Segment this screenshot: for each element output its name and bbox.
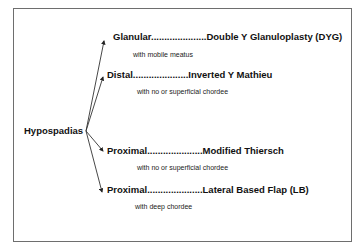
arrow-distal	[86, 77, 103, 131]
note-distal: with no or superficial chordee	[137, 88, 228, 95]
branch-proximal-2: Proximal.....................Lateral Bas…	[107, 184, 309, 195]
branch-distal: Distal.....................Inverted Y Ma…	[107, 69, 272, 80]
branch-proximal-1: Proximal.....................Modified Th…	[107, 145, 284, 156]
arrow-glanular	[86, 41, 104, 131]
note-proximal-1: with no or superficial chordee	[137, 164, 228, 171]
root-label: Hypospadias	[24, 125, 83, 136]
branch-glanular: Glanular.....................Double Y Gl…	[113, 31, 342, 42]
note-proximal-2: with deep chordee	[135, 203, 192, 210]
note-glanular: with mobile meatus	[133, 51, 193, 58]
